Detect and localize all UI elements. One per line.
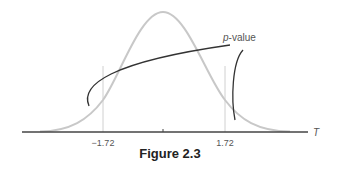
axis-variable-label: T	[313, 127, 320, 138]
figure-canvas: p-value −1.72 1.72 T	[0, 0, 340, 169]
figure-caption: Figure 2.3	[0, 146, 340, 161]
p-value-label: p-value	[222, 32, 256, 43]
density-curve	[40, 12, 290, 132]
p-value-arrow-left	[88, 45, 230, 106]
